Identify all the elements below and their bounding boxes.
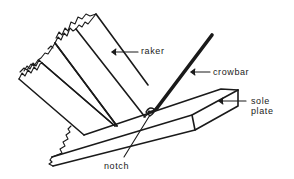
sole-plate-label-line1: sole bbox=[251, 96, 270, 106]
raker-shoring-diagram bbox=[0, 0, 294, 179]
raker-label: raker bbox=[141, 46, 165, 56]
raker-middle bbox=[20, 43, 117, 126]
crowbar-label: crowbar bbox=[213, 67, 249, 77]
raker-left bbox=[19, 60, 115, 135]
sole-plate bbox=[49, 89, 238, 166]
notch-label: notch bbox=[104, 161, 129, 171]
raker-right bbox=[55, 14, 148, 126]
sole-plate-label-line2: plate bbox=[251, 106, 274, 116]
